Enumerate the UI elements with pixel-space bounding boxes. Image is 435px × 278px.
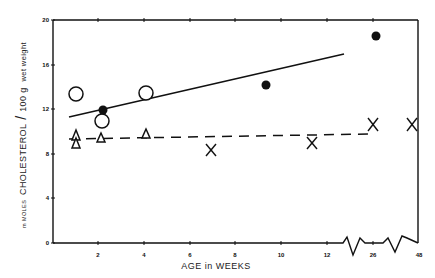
y-tick-20: 20: [42, 17, 49, 23]
filled-circle-point: [262, 81, 271, 90]
y-title-main: CHOLESTEROL: [18, 124, 28, 195]
cross-series: [206, 118, 417, 156]
y-tick-4: 4: [46, 195, 50, 201]
x-tick-12: 12: [324, 252, 331, 258]
filled-circle-point: [99, 106, 108, 115]
x-tick-labels: 2 4 6 8 10 12 26 48: [96, 252, 423, 258]
open-circle-point: [69, 87, 83, 101]
dashed-trend-line: [69, 134, 370, 139]
x-tick-6: 6: [188, 252, 192, 258]
svg-text:m MOLES CHOLESTEROL: m MOLES CHOLESTEROL / 100 g wet weight: [13, 42, 29, 228]
x-tick-8: 8: [233, 252, 237, 258]
y-axis-title: m MOLES CHOLESTEROL / 100 g wet weight: [13, 42, 29, 228]
y-title-suffix: wet weight: [19, 42, 28, 83]
open-circle-point: [139, 86, 153, 100]
x-tick-48: 48: [416, 252, 423, 258]
y-title-slash: /: [13, 116, 29, 120]
cross-point: [407, 118, 417, 131]
cross-point: [206, 144, 216, 156]
triangle-point: [142, 129, 150, 138]
cholesterol-chart: 0 4 8 12 16 20 2 4 6 8 10 12 26 48 AGE i…: [0, 0, 435, 278]
x-tick-4: 4: [142, 252, 146, 258]
triangle-point: [97, 133, 105, 142]
x-tick-2: 2: [96, 252, 100, 258]
x-tick-10: 10: [278, 252, 285, 258]
x-ticks: [98, 18, 373, 245]
y-tick-16: 16: [42, 62, 49, 68]
y-title-prefix: m MOLES: [21, 200, 27, 228]
cross-point: [307, 137, 317, 149]
cross-point: [368, 118, 378, 131]
x-tick-26: 26: [370, 252, 377, 258]
filled-circle-series: [99, 32, 381, 115]
y-tick-labels: 0 4 8 12 16 20: [42, 17, 49, 246]
open-circle-point: [95, 114, 109, 128]
y-tick-12: 12: [42, 106, 49, 112]
y-tick-8: 8: [46, 151, 50, 157]
filled-circle-point: [372, 32, 381, 41]
plot-frame: [53, 20, 418, 255]
x-axis-title: AGE in WEEKS: [181, 261, 251, 271]
y-tick-0: 0: [46, 240, 50, 246]
solid-trend-line: [69, 54, 344, 117]
y-title-unit: 100 g: [18, 87, 28, 112]
